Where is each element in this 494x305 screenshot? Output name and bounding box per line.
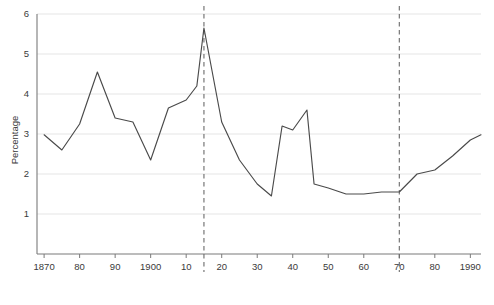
x-axis-tick-labels: 18708090190010203040506070801990 — [34, 261, 481, 272]
x-tick-label-80: 80 — [430, 261, 441, 272]
chart-container: 123456 18708090190010203040506070801990 … — [0, 0, 494, 305]
x-tick-label-30: 30 — [252, 261, 263, 272]
x-tick-label-1900: 1900 — [140, 261, 161, 272]
x-tick-label-1990: 1990 — [460, 261, 481, 272]
y-tick-label-6: 6 — [24, 8, 29, 19]
line-chart: 123456 18708090190010203040506070801990 … — [0, 0, 494, 305]
x-tick-label-60: 60 — [358, 261, 369, 272]
gridlines — [37, 14, 481, 214]
x-tick-label-50: 50 — [323, 261, 334, 272]
y-tick-label-3: 3 — [24, 128, 29, 139]
x-axis — [37, 254, 481, 258]
y-tick-label-2: 2 — [24, 168, 29, 179]
y-tick-label-1: 1 — [24, 208, 29, 219]
data-series — [44, 28, 481, 196]
event-annotation-lines — [204, 6, 399, 272]
series-line-0 — [44, 28, 481, 196]
x-tick-label-80: 80 — [74, 261, 85, 272]
x-tick-label-20: 20 — [216, 261, 227, 272]
x-tick-label-40: 40 — [287, 261, 298, 272]
y-tick-label-4: 4 — [24, 88, 29, 99]
y-tick-label-5: 5 — [24, 48, 29, 59]
x-tick-label-10: 10 — [181, 261, 192, 272]
y-axis-title: Percentage — [9, 116, 20, 165]
x-tick-label-90: 90 — [110, 261, 121, 272]
y-axis-tick-labels: 123456 — [24, 8, 29, 219]
x-tick-label-1870: 1870 — [34, 261, 55, 272]
